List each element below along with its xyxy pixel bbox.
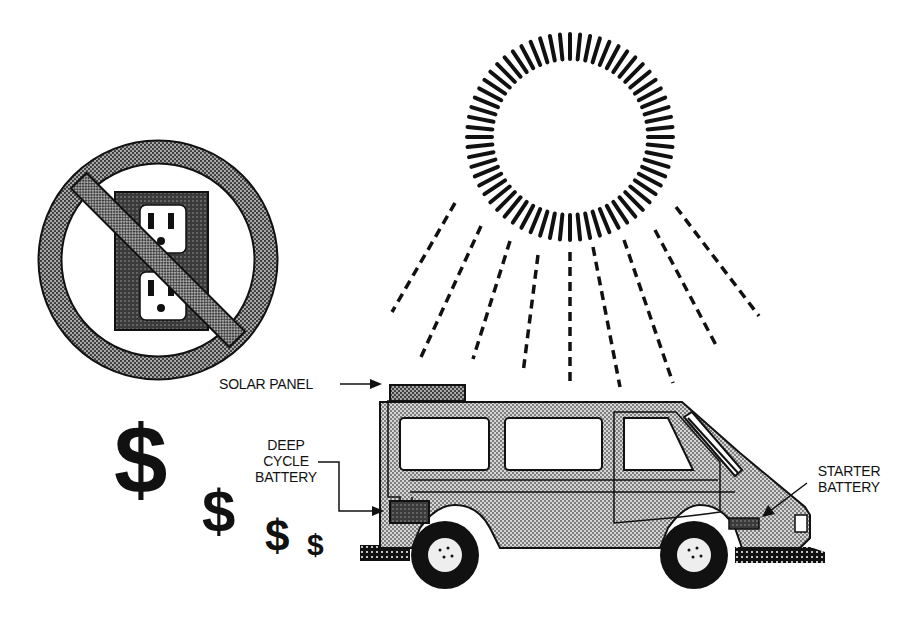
deep-cycle-battery-label: DEEP CYCLE BATTERY xyxy=(248,437,324,485)
starter-battery-label: STARTER BATTERY xyxy=(809,463,889,495)
deep-cycle-battery-arrow xyxy=(318,462,384,516)
solar-panel-arrow xyxy=(340,379,382,389)
deep-cycle-battery-label-line2: CYCLE xyxy=(248,453,324,469)
deep-cycle-battery-label-line1: DEEP xyxy=(248,437,324,453)
solar-panel-label: SOLAR PANEL xyxy=(219,376,313,392)
van-icon xyxy=(360,385,825,589)
no-outlet-icon xyxy=(50,152,266,368)
diagram-canvas xyxy=(0,0,922,621)
starter-battery-label-line1: STARTER xyxy=(809,463,889,479)
starter-battery-label-line2: BATTERY xyxy=(809,479,889,495)
sun-icon xyxy=(467,34,673,240)
dollar-sign-tiny: $ xyxy=(307,530,324,560)
dollar-sign-small: $ xyxy=(265,514,289,558)
dollar-sign-medium: $ xyxy=(202,482,235,542)
deep-cycle-battery-label-line3: BATTERY xyxy=(248,469,324,485)
dollar-sign-large: $ xyxy=(114,412,167,508)
sunlight-rays xyxy=(392,203,759,387)
